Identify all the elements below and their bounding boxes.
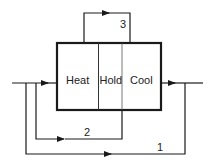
loop-3-label: 3	[120, 18, 126, 30]
loop-1-label: 1	[157, 141, 163, 153]
section-heat-label: Heat	[66, 74, 89, 86]
section-hold-label: Hold	[100, 74, 123, 86]
section-cool-label: Cool	[130, 74, 153, 86]
loop-2-label: 2	[84, 126, 90, 138]
process-diagram: Heat Hold Cool 3 2 1	[0, 0, 211, 167]
